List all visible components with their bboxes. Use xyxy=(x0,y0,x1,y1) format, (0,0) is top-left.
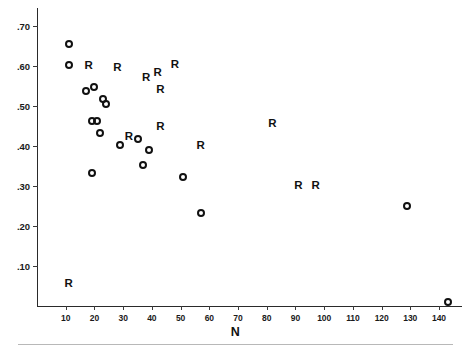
x-tick-mark xyxy=(66,306,67,310)
data-point-r: R xyxy=(125,131,133,143)
scatter-plot-figure: .10.20.30.40.50.60.70 102030405060708090… xyxy=(0,0,471,351)
plot-area xyxy=(37,8,462,306)
data-point-o xyxy=(444,298,452,306)
x-tick-mark xyxy=(295,306,296,310)
x-tick-mark xyxy=(238,306,239,310)
data-point-r: R xyxy=(142,72,150,84)
x-tick-mark xyxy=(324,306,325,310)
y-tick-label: .40 xyxy=(17,141,30,152)
x-tick-label: 50 xyxy=(176,313,185,323)
data-point-r: R xyxy=(153,67,161,79)
data-point-o xyxy=(93,117,101,125)
x-tick-mark xyxy=(123,306,124,310)
data-point-r: R xyxy=(294,180,302,192)
data-point-r: R xyxy=(64,278,72,290)
x-tick-mark xyxy=(181,306,182,310)
x-tick-mark xyxy=(94,306,95,310)
y-tick-label: .60 xyxy=(17,61,30,72)
x-tick-label: 90 xyxy=(291,313,300,323)
x-tick-mark xyxy=(382,306,383,310)
data-point-r: R xyxy=(156,84,164,96)
x-tick-label: 20 xyxy=(90,313,99,323)
x-tick-label: 100 xyxy=(317,313,331,323)
y-tick-label: .20 xyxy=(17,221,30,232)
data-point-r: R xyxy=(197,140,205,152)
data-point-r: R xyxy=(156,121,164,133)
x-tick-mark xyxy=(353,306,354,310)
x-tick-label: 60 xyxy=(205,313,214,323)
x-tick-label: 80 xyxy=(262,313,271,323)
data-point-o xyxy=(145,146,153,154)
data-point-o xyxy=(88,169,96,177)
data-point-o xyxy=(403,202,411,210)
y-tick-mark xyxy=(33,66,38,67)
x-tick-mark xyxy=(209,306,210,310)
x-tick-label: 140 xyxy=(432,313,446,323)
data-point-o xyxy=(96,129,104,137)
data-point-o xyxy=(116,141,124,149)
x-axis-title: N xyxy=(0,325,471,339)
x-tick-label: 120 xyxy=(375,313,389,323)
footer-rule xyxy=(18,344,453,345)
data-point-r: R xyxy=(113,62,121,74)
y-tick-mark xyxy=(33,146,38,147)
x-tick-label: 130 xyxy=(403,313,417,323)
x-tick-label: 10 xyxy=(61,313,70,323)
data-point-o xyxy=(134,135,142,143)
data-point-o xyxy=(65,61,73,69)
x-tick-mark xyxy=(439,306,440,310)
x-axis-line xyxy=(37,306,462,307)
y-tick-label: .50 xyxy=(17,101,30,112)
y-tick-mark xyxy=(33,106,38,107)
y-tick-mark xyxy=(33,186,38,187)
data-point-o xyxy=(102,100,110,108)
data-point-o xyxy=(90,83,98,91)
y-tick-mark xyxy=(33,266,38,267)
y-tick-mark xyxy=(33,226,38,227)
data-point-r: R xyxy=(85,60,93,72)
x-tick-label: 110 xyxy=(346,313,359,323)
x-tick-label: 40 xyxy=(147,313,156,323)
x-tick-mark xyxy=(152,306,153,310)
data-point-r: R xyxy=(268,118,276,130)
x-tick-mark xyxy=(410,306,411,310)
y-tick-label: .70 xyxy=(17,21,30,32)
y-tick-mark xyxy=(33,26,38,27)
y-tick-label: .30 xyxy=(17,181,30,192)
data-point-o xyxy=(197,209,205,217)
y-tick-label: .10 xyxy=(17,261,30,272)
data-point-o xyxy=(179,173,187,181)
data-point-o xyxy=(65,40,73,48)
data-point-o xyxy=(139,161,147,169)
data-point-r: R xyxy=(171,59,179,71)
data-point-o xyxy=(82,87,90,95)
x-tick-label: 30 xyxy=(119,313,128,323)
x-tick-mark xyxy=(267,306,268,310)
x-tick-label: 70 xyxy=(233,313,242,323)
data-point-r: R xyxy=(311,180,319,192)
